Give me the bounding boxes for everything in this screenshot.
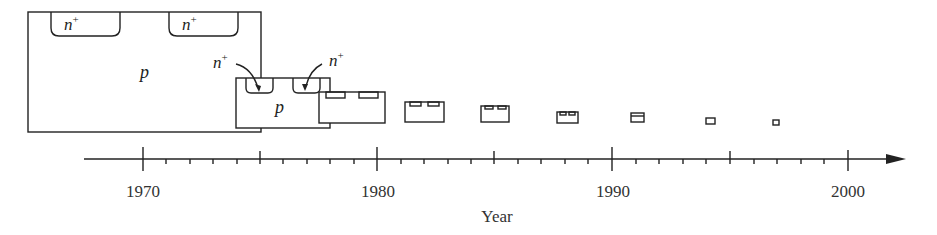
n-plus-label: n+ (329, 49, 344, 70)
p-substrate-label: p (273, 97, 284, 117)
tick-label-1980: 1980 (361, 182, 395, 201)
device-1988 (557, 112, 578, 123)
axis-arrowhead-icon (886, 154, 906, 164)
tick-label-1990: 1990 (596, 182, 630, 201)
axis-title: Year (481, 207, 513, 226)
year-axis (84, 147, 906, 171)
device-1982 (405, 102, 444, 122)
device-1980 (319, 92, 385, 123)
device-1997 (773, 120, 779, 125)
device-scaling-diagram: n+ n+ p n+ n+ p 1970 1980 1990 2000 Year (0, 0, 937, 235)
device-1994 (706, 118, 715, 124)
device-1985 (481, 106, 509, 122)
device-1991 (631, 113, 644, 122)
tick-label-2000: 2000 (831, 182, 865, 201)
tick-label-1970: 1970 (126, 182, 160, 201)
p-substrate-label: p (138, 62, 149, 82)
